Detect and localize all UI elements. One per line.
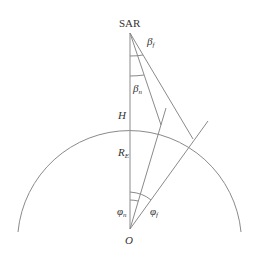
near-slant-ray — [130, 33, 161, 125]
beta-n-label: βn — [132, 82, 142, 96]
phi-n-arc — [130, 200, 138, 201]
height-label: H — [117, 109, 127, 121]
far-earth-radius — [130, 121, 208, 229]
beta-n-arc — [130, 75, 144, 76]
radius-label: RE — [117, 146, 130, 160]
phi-f-label: φf — [150, 205, 159, 219]
origin-label: O — [125, 234, 133, 246]
beta-f-arc — [130, 55, 143, 56]
near-earth-radius — [130, 108, 166, 229]
sar-geometry-diagram: SAR βf βn H RE φn φf O — [0, 0, 255, 262]
phi-n-label: φn — [117, 205, 127, 219]
sar-label: SAR — [119, 17, 141, 29]
beta-f-label: βf — [146, 35, 155, 49]
